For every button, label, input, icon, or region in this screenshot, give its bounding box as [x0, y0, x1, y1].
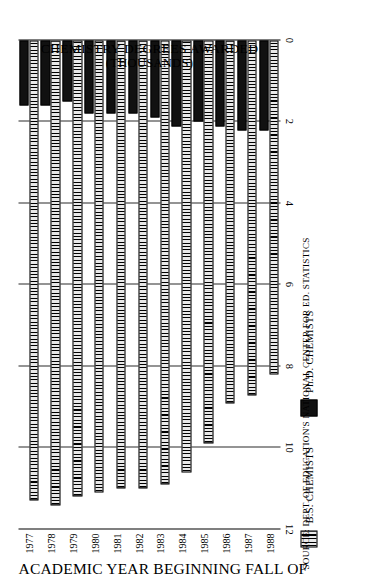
value-axis-ticks: 121086420	[282, 40, 298, 529]
value-tick-label-10: 10	[282, 442, 294, 453]
bar-row	[127, 40, 149, 529]
plot-area	[18, 40, 280, 529]
bar-bs-1982	[138, 40, 147, 488]
value-tick-label-12: 12	[282, 524, 294, 535]
bar-row	[84, 40, 106, 529]
bar-row	[18, 40, 40, 529]
bar-bs-1978	[50, 40, 59, 505]
bar-bs-1986	[225, 40, 234, 403]
bar-row	[258, 40, 280, 529]
chart-figure: 121086420 197719781979198019811982198319…	[0, 0, 375, 583]
bar-bs-1981	[116, 40, 125, 488]
bar-bs-1987	[247, 40, 256, 395]
value-tick-label-0: 0	[282, 37, 294, 42]
bar-bs-1985	[203, 40, 212, 443]
bar-row	[215, 40, 237, 529]
bar-row	[62, 40, 84, 529]
source-note: SOURCE: DEPT. OF EDUCATION'S NATIONAL CE…	[300, 237, 310, 569]
bar-bs-1988	[269, 40, 278, 374]
value-tick-label-8: 8	[282, 363, 294, 368]
bar-row	[40, 40, 62, 529]
value-tick-label-6: 6	[282, 282, 294, 287]
bar-series-container	[18, 40, 280, 529]
bar-row	[193, 40, 215, 529]
value-axis-title-line1: CHEMISTRY DEGREES AWARDED	[40, 40, 257, 55]
value-axis-title: CHEMISTRY DEGREES AWARDED (THOUSANDS)	[18, 40, 280, 70]
value-tick-label-4: 4	[282, 200, 294, 205]
bar-bs-1979	[72, 40, 81, 496]
bar-row	[236, 40, 258, 529]
bar-bs-1984	[181, 40, 190, 472]
bar-bs-1983	[160, 40, 169, 484]
category-axis-title: ACADEMIC YEAR BEGINNING FALL OF	[18, 559, 280, 577]
bar-bs-1977	[29, 40, 38, 500]
rotated-figure-wrapper: 121086420 197719781979198019811982198319…	[0, 0, 375, 583]
value-tick-label-2: 2	[282, 119, 294, 124]
bar-row	[105, 40, 127, 529]
bar-row	[149, 40, 171, 529]
value-axis-title-line2: (THOUSANDS)	[18, 55, 280, 70]
bar-row	[171, 40, 193, 529]
bar-bs-1980	[94, 40, 103, 492]
